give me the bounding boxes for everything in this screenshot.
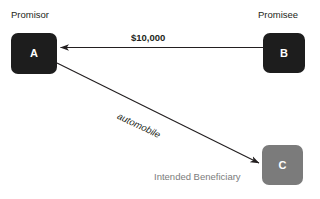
payment-amount-label: $10,000	[131, 33, 165, 43]
node-c-letter: C	[278, 160, 286, 171]
consideration-arrow	[57, 63, 259, 163]
node-beneficiary-c: C	[262, 145, 303, 185]
diagram-canvas: Promisor Promisee Intended Beneficiary $…	[0, 0, 320, 199]
node-promisor-a: A	[11, 33, 57, 74]
node-b-letter: B	[280, 48, 288, 59]
node-promisee-b: B	[263, 33, 305, 73]
node-a-letter: A	[30, 48, 38, 59]
